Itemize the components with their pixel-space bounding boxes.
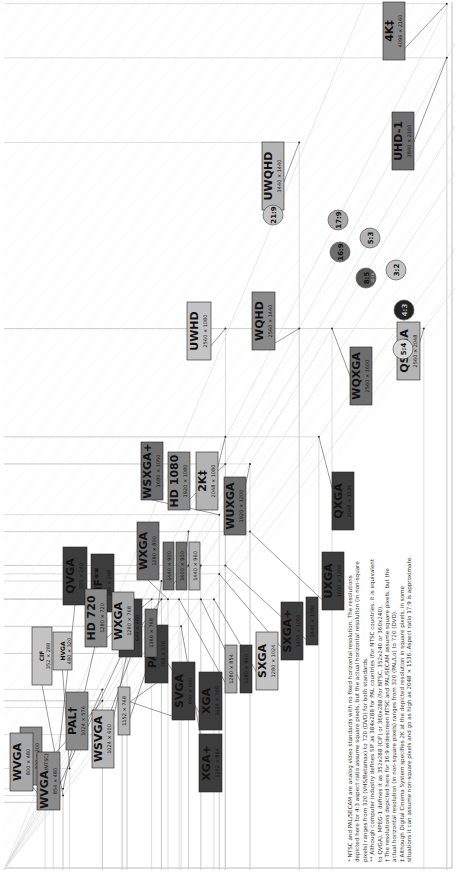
standard-name: UXGA <box>322 563 335 598</box>
standard-resolution: 1280 × 960 <box>243 654 249 684</box>
aspect-ratio-5-3: 5:3 <box>360 228 380 248</box>
standard-resolution: 1440 × 1080 <box>309 605 315 638</box>
footnote-line: depicted here for 4:3 aspect ratio assum… <box>354 561 361 862</box>
aspect-ratio-5-4: 5:4 <box>393 339 413 359</box>
standard-label-wuxga: WUXGA1920 × 1200 <box>224 477 246 535</box>
standard-resolution: 800 × 480 <box>25 749 31 775</box>
standard-name: WXGA <box>112 601 125 640</box>
standard-name: PAL† <box>66 706 79 735</box>
standard-label-1440-1080: 1440 × 1080 <box>306 597 318 645</box>
standard-label-wqhd: WQHD2560 × 1440 <box>252 292 275 350</box>
standard-name: HD 1080 <box>168 454 181 507</box>
aspect-ratio-badges: 21:917:916:95:38:516:103:24:35:4 <box>263 205 414 359</box>
standard-name: QVGA <box>64 558 77 594</box>
standard-label-2k-: 2K‡2048 × 1080 <box>196 452 218 510</box>
diagram-canvas: CGA320 × 200CIF352 × 288HVGA480 × 320QVG… <box>0 0 456 874</box>
standard-label-uwqhd: UWQHD3440 × 1440 <box>262 142 284 210</box>
footnote-line: ** Although computer industry defines SI… <box>369 558 376 862</box>
footnote-line: ‡ Although Digital Cinema System specifi… <box>399 585 406 862</box>
footnote-line: situations it can assume non-square pixe… <box>406 556 413 862</box>
standard-label-xga-: XGA+1152 × 864 <box>199 734 222 792</box>
standard-name: HD 720 <box>85 595 98 640</box>
standard-label-1280-960: 1280 × 960 <box>240 645 252 693</box>
footnote-line: † The resolutions depicted here for 16:9… <box>384 568 391 862</box>
standard-name: QXGA <box>332 483 345 519</box>
aspect-ratio-16-9: 16:9 <box>330 242 350 262</box>
standard-resolution: 1280 × 720 <box>99 603 105 633</box>
standard-resolution: 1440 × 960 <box>192 551 198 581</box>
standard-resolution: 1024 × 768 <box>214 686 220 716</box>
footnotes: * NTSC and PAL/SECAM are analog video st… <box>347 556 413 862</box>
standard-name: UWHD <box>188 311 201 350</box>
svg-text:16:10: 16:10 <box>371 273 375 283</box>
standard-resolution: 1680 × 1050 <box>155 455 161 488</box>
standard-resolution: 1280 × 768 <box>126 606 132 636</box>
standard-label-1152-768: 1152 × 768 <box>118 687 130 735</box>
standard-resolution: 2560 × 1600 <box>364 360 370 393</box>
standard-label-uxga: UXGA1600 × 1200 <box>322 552 344 610</box>
standard-resolution: 3840 × 2160 <box>406 125 412 158</box>
standard-name: UWQHD <box>262 152 275 201</box>
standard-label-1366-768: 1366 × 768 <box>145 609 157 657</box>
svg-text:3:2: 3:2 <box>393 264 401 277</box>
svg-text:4:3: 4:3 <box>401 304 409 317</box>
standard-label-1440-900: 1440 × 900 <box>163 542 174 590</box>
standard-name: WXGA <box>137 531 150 570</box>
svg-text:17:9: 17:9 <box>335 211 343 229</box>
standard-label-sxga-: SXGA+1400 × 1050 <box>281 602 303 660</box>
standard-resolution: 768 × 576 <box>160 641 166 667</box>
standard-label-qvga: QVGA320 × 240 <box>63 547 87 605</box>
standard-resolution: 1280 × 1024 <box>270 645 276 678</box>
standard-resolution: 1024 × 600 <box>106 724 112 754</box>
standard-name: WSXGA+ <box>141 443 154 498</box>
standard-resolution: 480 × 320 <box>66 638 72 664</box>
standard-resolution: 1280 × 800 <box>151 536 157 566</box>
standard-resolution: 1366 × 768 <box>148 618 154 648</box>
standard-resolution: 3440 × 1440 <box>276 160 282 193</box>
standard-name: XGA+ <box>200 745 213 780</box>
standard-name: HVGA <box>59 641 66 661</box>
footnote-line: pixels) ranges from 320 (VHS/Betamax) to… <box>362 657 369 862</box>
standard-label-wsvga: WSVGA1024 × 600 <box>92 710 114 768</box>
standard-label-4k-: 4K‡4096 × 2160 <box>383 2 405 60</box>
standard-resolution: 640 × 480 <box>134 615 140 641</box>
standard-label-wxga: WXGA1280 × 768 <box>112 592 134 650</box>
aspect-ratio-21-9: 21:9 <box>263 205 283 225</box>
standard-resolution: 352 × 288 <box>45 643 51 669</box>
standard-label-pal-: PAL†1024 × 576 <box>66 692 88 750</box>
standard-name: WQHD <box>253 301 266 341</box>
standard-name: UHD-1 <box>392 121 405 161</box>
standard-label-uwhd: UWHD2560 × 1080 <box>187 302 211 360</box>
standard-label-hvga: HVGA480 × 320 <box>53 632 72 670</box>
standard-label-sxga: SXGA1280 × 1024 <box>256 632 278 690</box>
standard-resolution: 2560 × 1440 <box>267 305 273 338</box>
standard-name: SVGA <box>173 674 186 708</box>
standard-label-cif: CIF352 × 288 <box>32 627 52 685</box>
video-standards-diagram: CGA320 × 200CIF352 × 288HVGA480 × 320QVG… <box>0 0 456 874</box>
standard-name: 4K‡ <box>383 20 396 42</box>
standard-resolution: 854 × 480 <box>52 768 58 794</box>
standard-name: XGA <box>200 688 213 715</box>
aspect-ratio-4-3: 4:3 <box>394 300 414 320</box>
standard-resolution: 1400 × 1050 <box>295 615 301 648</box>
standard-label-1440-960: 1440 × 960 <box>189 542 200 590</box>
svg-text:16:9: 16:9 <box>337 243 345 261</box>
standard-label-wxga: WXGA1280 × 800 <box>137 522 159 580</box>
standard-label-xga: XGA1024 × 768 <box>199 672 222 730</box>
svg-text:21:9: 21:9 <box>270 206 278 224</box>
standard-name: SXGA+ <box>281 609 294 652</box>
standard-name: WSVGA <box>92 715 105 762</box>
standard-label-hd-1080: HD 10801920 × 1080 <box>168 452 190 510</box>
standard-name: WQXGA <box>350 352 363 400</box>
standard-name: SXGA <box>256 644 269 678</box>
footnote-line: to QVGA), MPEG-1 defines it as 352x288 (… <box>377 605 383 862</box>
standard-resolution: 800 × 600 <box>187 678 193 704</box>
footnote-line: * NTSC and PAL/SECAM are analog video st… <box>347 575 354 862</box>
standard-resolution: 2560 × 1080 <box>202 315 208 348</box>
standard-name: WUXGA <box>224 482 237 530</box>
standard-label-1280-854: 1280 × 854 <box>225 645 237 693</box>
standard-resolution: 1600 × 900 <box>179 551 185 581</box>
svg-text:5:4: 5:4 <box>400 343 408 356</box>
standard-resolution: 1920 × 1080 <box>182 465 188 498</box>
standard-label-uhd-1: UHD-13840 × 2160 <box>392 112 414 170</box>
